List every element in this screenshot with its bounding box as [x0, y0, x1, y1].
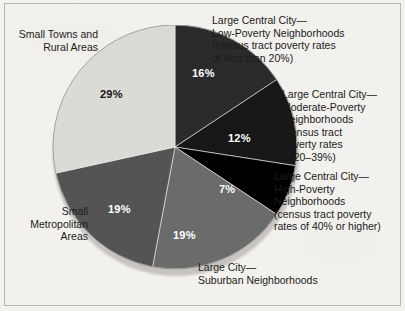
- callout-small-towns: Small Towns and Rural Areas: [4, 28, 98, 53]
- pie-chart-figure: 16% 12% 7% 19% 19% 29% Large Central Cit…: [0, 0, 405, 311]
- slice-value-small-metro: 19%: [108, 203, 131, 215]
- callout-moderate-poverty: Large Central City— Moderate-Poverty Nei…: [282, 88, 400, 164]
- slice-value-suburban: 19%: [173, 229, 196, 241]
- slice-value-small-towns: 29%: [100, 88, 123, 100]
- callout-small-metro: Small Metropolitan Areas: [4, 205, 88, 243]
- slice-value-moderate-poverty: 12%: [228, 132, 251, 144]
- slice-value-low-poverty: 16%: [192, 67, 215, 79]
- callout-high-poverty: Large Central City— High-Poverty Neighbo…: [274, 170, 402, 233]
- slice-value-high-poverty: 7%: [219, 183, 235, 195]
- callout-low-poverty: Large Central City— Low-Poverty Neighbor…: [212, 14, 402, 64]
- callout-suburban: Large City— Suburban Neighborhoods: [198, 261, 368, 286]
